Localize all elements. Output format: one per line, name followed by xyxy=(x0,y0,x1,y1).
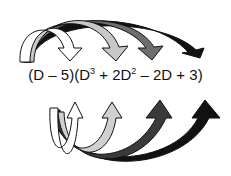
factored-expression: (D – 5)(D3 + 2D2 – 2D + 3) xyxy=(0,66,231,83)
distribution-diagram: (D – 5)(D3 + 2D2 – 2D + 3) xyxy=(0,0,231,176)
first-factor: (D – 5) xyxy=(28,66,74,83)
remaining-terms: – 2D + 3) xyxy=(136,66,202,83)
arrows-layer xyxy=(0,0,231,176)
term-2d: + 2D xyxy=(95,66,131,83)
second-factor-open: (D xyxy=(74,66,90,83)
